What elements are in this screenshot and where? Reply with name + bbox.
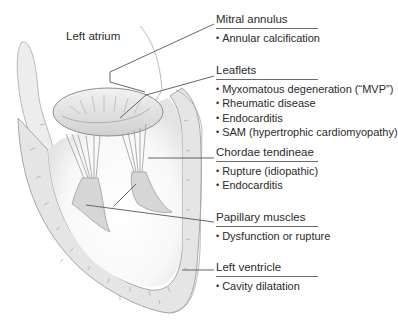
- callout-mitral-annulus: Mitral annulus Annular calcification: [216, 13, 320, 46]
- callout-items: Annular calcification: [216, 32, 320, 46]
- callout-heading: Chordae tendineae: [216, 146, 318, 162]
- callout-items: Cavity dilatation: [216, 280, 318, 294]
- callout-heading: Leaflets: [216, 64, 318, 80]
- callout-chordae-tendineae: Chordae tendineae Rupture (idiopathic) E…: [216, 146, 318, 194]
- callout-item: Rupture (idiopathic): [216, 165, 318, 179]
- callout-heading: Papillary muscles: [216, 211, 318, 227]
- callout-items: Myxomatous degeneration (“MVP”) Rheumati…: [216, 83, 398, 141]
- callout-items: Rupture (idiopathic) Endocarditis: [216, 165, 318, 194]
- callout-item: Annular calcification: [216, 32, 320, 46]
- callout-left-ventricle: Left ventricle Cavity dilatation: [216, 261, 318, 294]
- callout-heading: Mitral annulus: [216, 13, 318, 29]
- callout-heading: Left ventricle: [216, 261, 318, 277]
- callout-item: Endocarditis: [216, 179, 318, 193]
- callout-item: Rheumatic disease: [216, 97, 398, 111]
- callout-items: Dysfunction or rupture: [216, 230, 330, 244]
- callout-papillary-muscles: Papillary muscles Dysfunction or rupture: [216, 211, 330, 244]
- callout-item: Myxomatous degeneration (“MVP”): [216, 83, 398, 97]
- callout-item: SAM (hypertrophic cardiomyopathy): [216, 126, 398, 140]
- callout-leaflets: Leaflets Myxomatous degeneration (“MVP”)…: [216, 64, 398, 141]
- left-atrium-label: Left atrium: [66, 30, 120, 42]
- callout-item: Endocarditis: [216, 112, 398, 126]
- callout-item: Cavity dilatation: [216, 280, 318, 294]
- callout-item: Dysfunction or rupture: [216, 230, 330, 244]
